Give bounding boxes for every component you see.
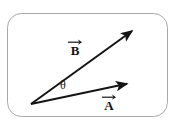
vector-b-letter: B <box>67 44 83 57</box>
vector-diagram-figure: B A θ <box>0 0 180 126</box>
angle-theta-label: θ <box>60 79 66 91</box>
figure-border <box>8 14 168 117</box>
vector-a-letter: A <box>101 99 117 112</box>
vector-a-label: A <box>101 93 117 112</box>
vector-b-label: B <box>67 38 83 57</box>
diagram-canvas <box>0 0 180 126</box>
